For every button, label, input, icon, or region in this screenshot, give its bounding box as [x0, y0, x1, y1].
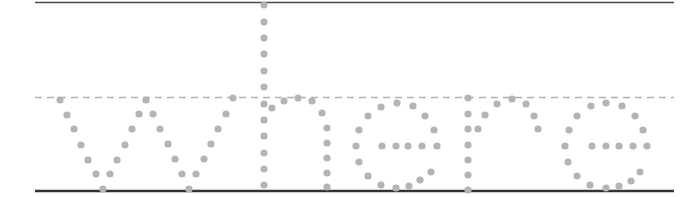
trace-dot: [364, 172, 371, 179]
trace-dot: [534, 125, 541, 132]
trace-dot: [464, 171, 471, 178]
trace-dot: [142, 96, 149, 103]
trace-dot: [164, 140, 171, 147]
trace-dot: [409, 102, 416, 109]
trace-dot: [260, 132, 267, 139]
trace-dot: [185, 185, 192, 192]
trace-dot: [294, 94, 301, 101]
trace-dot: [405, 182, 412, 189]
trace-dot: [323, 154, 330, 161]
trace-dot: [323, 169, 330, 176]
trace-dot: [308, 97, 315, 104]
trace-dot: [481, 111, 488, 118]
trace-dot: [565, 126, 572, 133]
trace-dot: [260, 83, 267, 90]
trace-dot: [464, 156, 471, 163]
trace-dot: [618, 102, 625, 109]
trace-dot: [392, 184, 399, 191]
trace-dot: [192, 170, 199, 177]
trace-dot: [627, 177, 634, 184]
trace-dot: [56, 96, 63, 103]
trace-dot: [77, 141, 84, 148]
letter-e-dots: [352, 99, 440, 191]
trace-dot: [260, 18, 267, 25]
trace-dot: [464, 125, 471, 132]
trace-dot: [106, 170, 113, 177]
handwriting-practice-sheet: [0, 0, 698, 197]
trace-dot: [260, 181, 267, 188]
trace-dot: [464, 94, 471, 101]
trace-dot: [615, 182, 622, 189]
trace-dot: [364, 112, 371, 119]
trace-dot: [229, 94, 236, 101]
trace-dot: [171, 155, 178, 162]
trace-dot: [588, 142, 595, 149]
trace-dot: [156, 125, 163, 132]
trace-dot: [280, 97, 287, 104]
trace-dot: [70, 125, 77, 132]
trace-dot: [602, 184, 609, 191]
trace-dot: [268, 104, 275, 111]
trace-dot: [260, 116, 267, 123]
trace-dot: [433, 142, 440, 149]
trace-dot: [355, 158, 362, 165]
trace-dot: [377, 103, 384, 110]
letter-e-dots: [561, 99, 650, 191]
trace-dot: [355, 126, 362, 133]
trace-dot: [352, 142, 359, 149]
trace-dot: [631, 112, 638, 119]
trace-dot: [113, 156, 120, 163]
trace-dot: [464, 110, 471, 117]
trace-dot: [260, 1, 267, 8]
trace-dot: [636, 168, 643, 175]
trace-dot: [323, 124, 330, 131]
trace-dot: [99, 185, 106, 192]
trace-dot: [323, 183, 330, 190]
trace-dot: [260, 165, 267, 172]
trace-dot: [260, 34, 267, 41]
trace-dot: [260, 100, 267, 107]
trace-dot: [149, 110, 156, 117]
trace-dot: [260, 50, 267, 57]
trace-dot: [493, 100, 500, 107]
trace-dot: [464, 141, 471, 148]
trace-dot: [602, 99, 609, 106]
trace-dot: [323, 139, 330, 146]
trace-dot: [207, 140, 214, 147]
trace-dot: [121, 141, 128, 148]
trace-dot: [200, 155, 207, 162]
trace-dot: [629, 142, 636, 149]
trace-dot: [63, 111, 70, 118]
trace-dot: [602, 142, 609, 149]
trace-dot: [643, 142, 650, 149]
trace-dot: [615, 142, 622, 149]
trace-dot: [404, 142, 411, 149]
trace-dot: [464, 186, 471, 193]
trace-dot: [222, 110, 229, 117]
trace-dot: [178, 170, 185, 177]
trace-dot: [522, 100, 529, 107]
trace-dot: [418, 142, 425, 149]
letter-r-dots: [464, 94, 541, 193]
trace-dot: [393, 99, 400, 106]
trace-dot: [427, 168, 434, 175]
trace-dot: [135, 110, 142, 117]
trace-dot: [587, 102, 594, 109]
trace-dot: [474, 125, 481, 132]
trace-dot: [260, 67, 267, 74]
trace-dot: [392, 142, 399, 149]
trace-dot: [260, 149, 267, 156]
trace-dot: [84, 156, 91, 163]
letter-h-dots: [260, 1, 330, 190]
trace-dot: [318, 109, 325, 116]
trace-dot: [128, 125, 135, 132]
letter-w-dots: [56, 94, 236, 192]
trace-dot: [430, 126, 437, 133]
trace-dot: [377, 181, 384, 188]
trace-dot: [561, 142, 568, 149]
trace-dot: [586, 181, 593, 188]
trace-dot: [564, 158, 571, 165]
trace-dot: [573, 172, 580, 179]
trace-dot: [573, 112, 580, 119]
trace-dot: [92, 170, 99, 177]
